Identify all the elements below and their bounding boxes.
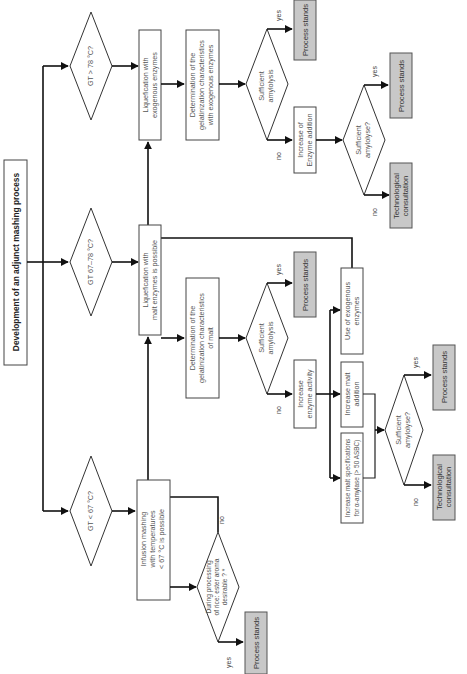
svg-text:amylolyse?: amylolyse? — [363, 122, 372, 158]
svg-text:amylolysis: amylolysis — [266, 321, 275, 355]
svg-text:with exogenous enzymes: with exogenous enzymes — [206, 44, 215, 126]
svg-text:of malt: of malt — [206, 327, 215, 349]
trunk-connectors — [27, 66, 68, 511]
title-box: Development of an adjunct mashing proces… — [4, 160, 27, 365]
svg-text:no: no — [371, 208, 378, 216]
svg-text:Increase malt specifications: Increase malt specifications — [344, 439, 352, 518]
svg-text:Process stands: Process stands — [440, 351, 449, 403]
svg-text:During processing: During processing — [205, 560, 213, 613]
svg-text:Enzyme addition: Enzyme addition — [305, 113, 314, 166]
adjunct-mashing-flowchart: Development of an adjunct mashing proces… — [0, 0, 467, 674]
svg-text:Technological: Technological — [392, 173, 401, 219]
svg-text:enzymes: enzymes — [352, 296, 361, 325]
svg-text:desirable ? *: desirable ? * — [221, 568, 228, 605]
loop-exogenous-to-high — [148, 142, 352, 268]
svg-text:Increase: Increase — [296, 380, 305, 408]
branch-high: GT > 78 °C? Liquefication with exogenous… — [70, 0, 412, 228]
svg-text:yes: yes — [371, 66, 379, 77]
svg-text:amylolysis: amylolysis — [266, 69, 275, 103]
svg-text:yes: yes — [412, 357, 420, 368]
svg-text:of rice: ester aroma: of rice: ester aroma — [213, 558, 220, 615]
svg-text:no: no — [412, 498, 419, 506]
svg-text:Sufficient: Sufficient — [354, 125, 363, 154]
svg-text:yes: yes — [275, 264, 283, 275]
svg-text:Process stands: Process stands — [397, 60, 406, 112]
title-text: Development of an adjunct mashing proces… — [11, 173, 21, 352]
svg-text:< 67 °C is possible: < 67 °C is possible — [157, 509, 166, 569]
svg-text:with temperatures: with temperatures — [148, 510, 157, 569]
svg-text:for α-amylase (> 50 ASBC): for α-amylase (> 50 ASBC) — [353, 440, 361, 516]
question-gt-low: GT < 67 °C? — [86, 491, 95, 531]
svg-text:Sufficient: Sufficient — [394, 415, 403, 444]
svg-text:yes: yes — [275, 10, 283, 21]
question-gt-high: GT > 78 °C? — [86, 46, 95, 86]
svg-text:enzyme activity: enzyme activity — [305, 369, 314, 419]
svg-text:no: no — [275, 406, 282, 414]
question-gt-mid: GT 67–78 °C? — [86, 239, 95, 285]
svg-text:Process stands: Process stands — [252, 617, 261, 669]
svg-text:yes: yes — [225, 657, 233, 668]
svg-text:consultation: consultation — [444, 467, 453, 508]
svg-text:Use of exogenous: Use of exogenous — [343, 282, 352, 340]
svg-text:consultation: consultation — [401, 176, 410, 217]
svg-text:Increase of: Increase of — [296, 122, 305, 158]
svg-text:Infusion mashing: Infusion mashing — [139, 512, 148, 566]
svg-text:no: no — [275, 152, 282, 160]
svg-text:amylolyse?: amylolyse? — [403, 412, 412, 448]
svg-text:Sufficient: Sufficient — [257, 71, 266, 100]
svg-text:Liquefication with: Liquefication with — [141, 57, 150, 112]
svg-text:Determination of the: Determination of the — [188, 53, 197, 118]
branch-mid: GT 67–78 °C? Liquefication with malt enz… — [70, 208, 455, 523]
branch-low: GT < 67 °C? Infusion mashing with temper… — [70, 456, 267, 674]
svg-text:Technological: Technological — [435, 464, 444, 510]
svg-text:Process stands: Process stands — [301, 259, 310, 311]
svg-text:Sufficient: Sufficient — [257, 323, 266, 352]
svg-text:addition: addition — [352, 381, 361, 406]
svg-text:gelatinization characteristics: gelatinization characteristics — [197, 40, 206, 130]
svg-text:no: no — [218, 516, 225, 524]
svg-text:Determination of the: Determination of the — [188, 306, 197, 371]
svg-text:Liquefication with: Liquefication with — [141, 252, 150, 307]
svg-text:gelatinization characteristics: gelatinization characteristics — [197, 293, 206, 383]
svg-text:exogenous enzymes: exogenous enzymes — [150, 52, 159, 118]
svg-text:Process stands: Process stands — [301, 4, 310, 56]
svg-text:Increase malt: Increase malt — [343, 372, 352, 415]
svg-text:malt enzymes is possible: malt enzymes is possible — [150, 240, 159, 320]
